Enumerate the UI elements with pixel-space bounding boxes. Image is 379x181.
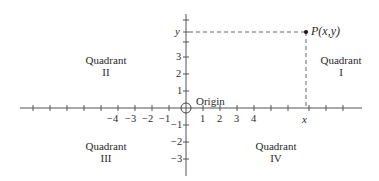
x-tick-label-neg1: −1 (159, 113, 170, 124)
quadrant-iv-title: Quadrant (246, 140, 306, 152)
quadrant-i-numeral: I (311, 66, 371, 78)
x-tick-label-neg4: −4 (107, 113, 118, 124)
quadrant-i-title: Quadrant (311, 54, 371, 66)
x-marker-label: x (302, 113, 307, 125)
quadrant-ii-numeral: II (76, 66, 136, 78)
quadrant-iv-label: Quadrant IV (246, 140, 306, 164)
quadrant-ii-title: Quadrant (76, 54, 136, 66)
coordinate-plane-diagram: P(x,y) y x Origin −4 −3 −2 −1 1 2 3 4 3 … (0, 0, 379, 181)
y-tick-label-neg3: −3 (171, 153, 182, 164)
y-tick-label-pos2: 2 (176, 68, 181, 79)
quadrant-iii-label: Quadrant III (76, 140, 136, 164)
origin-label: Origin (196, 95, 225, 107)
x-tick-label-pos3: 3 (234, 113, 239, 124)
quadrant-i-label: Quadrant I (311, 54, 371, 78)
quadrant-iv-numeral: IV (246, 152, 306, 164)
point-label: P(x,y) (311, 25, 340, 37)
y-tick-label-pos3: 3 (176, 51, 181, 62)
x-tick-label-neg3: −3 (125, 113, 136, 124)
x-tick-label-pos4: 4 (251, 113, 256, 124)
point-p (304, 30, 308, 34)
quadrant-iii-numeral: III (76, 152, 136, 164)
y-marker-label: y (175, 25, 180, 37)
y-tick-label-pos1: 1 (177, 85, 182, 96)
x-tick-label-pos1: 1 (200, 113, 205, 124)
quadrant-ii-label: Quadrant II (76, 54, 136, 78)
y-tick-label-neg2: −2 (171, 136, 182, 147)
x-tick-label-pos2: 2 (217, 113, 222, 124)
x-tick-label-neg2: −2 (142, 113, 153, 124)
quadrant-iii-title: Quadrant (76, 140, 136, 152)
y-tick-label-neg1: −1 (171, 119, 182, 130)
